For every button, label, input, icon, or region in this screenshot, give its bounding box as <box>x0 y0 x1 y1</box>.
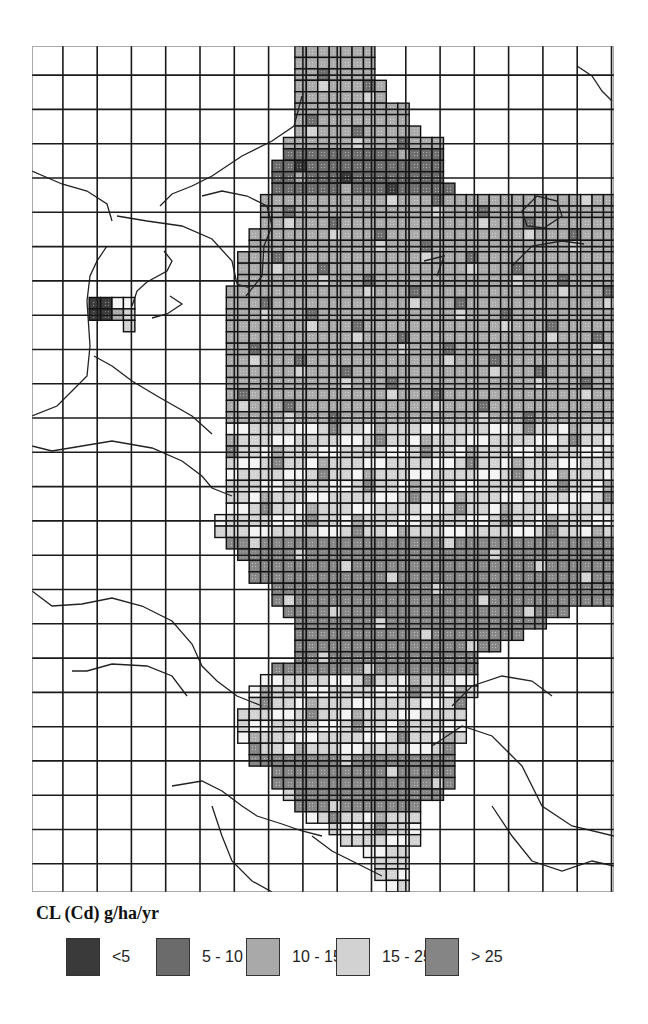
grid-cells <box>89 46 614 892</box>
legend-swatch <box>246 938 280 976</box>
legend-item: 15 - 25 <box>336 937 432 977</box>
legend-label: 5 - 10 <box>202 948 243 966</box>
top-caption-cropped <box>115 0 535 2</box>
legend-swatch <box>156 938 190 976</box>
legend-item: > 25 <box>425 937 503 977</box>
legend-label: <5 <box>112 948 130 966</box>
legend-item: 10 - 15 <box>246 937 342 977</box>
legend-swatch <box>336 938 370 976</box>
legend-label: > 25 <box>471 948 503 966</box>
legend-label: 10 - 15 <box>292 948 342 966</box>
grid-map <box>32 46 614 892</box>
legend-swatch <box>425 938 459 976</box>
legend-item: 5 - 10 <box>156 937 243 977</box>
legend-item: <5 <box>66 937 130 977</box>
legend-swatch <box>66 938 100 976</box>
legend-title: CL (Cd) g/ha/yr <box>36 903 159 924</box>
map-svg <box>32 46 614 892</box>
